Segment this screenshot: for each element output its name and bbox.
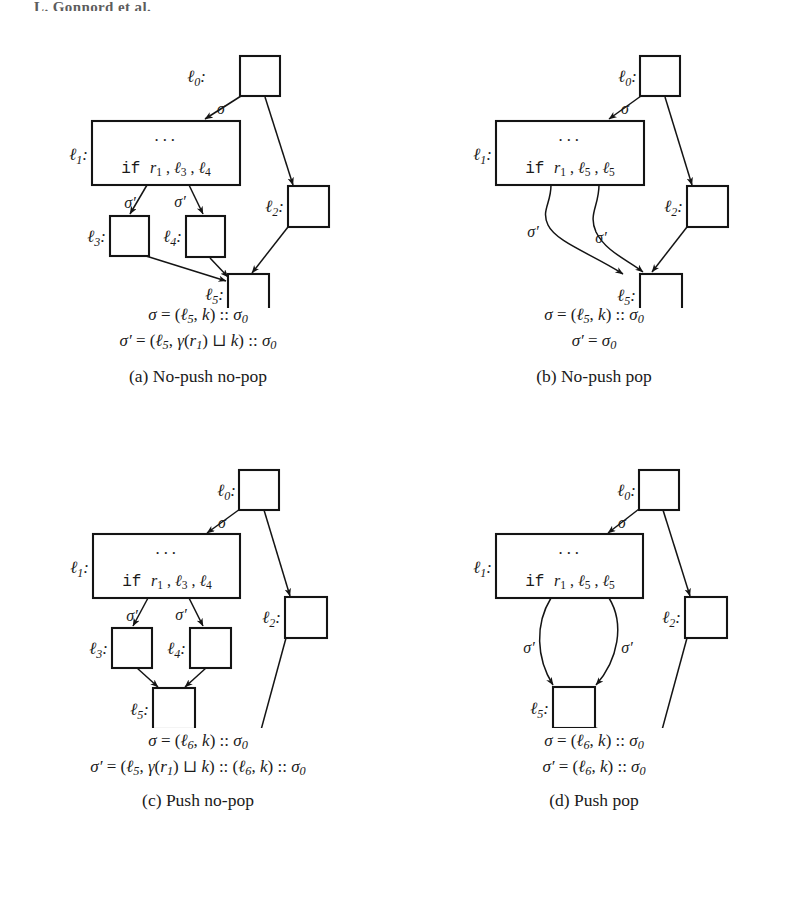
box-ellipsis-d: ··· xyxy=(558,544,582,563)
edge-label-sigma-b: σ xyxy=(621,100,630,117)
node-l3[interactable] xyxy=(112,628,152,668)
node-label-l0: ℓ0: xyxy=(217,481,236,503)
edge-label-sigma-prime-left-a: σ′ xyxy=(124,194,136,211)
formulas-a: σ = (ℓ5, k) :: σ0 σ′ = (ℓ5, γ(r1) ⊔ k) :… xyxy=(0,304,396,356)
edge-l1-to-l5-left xyxy=(546,185,623,274)
node-label-l2: ℓ2: xyxy=(664,197,683,219)
node-label-l1: ℓ1: xyxy=(473,558,492,580)
node-l5[interactable] xyxy=(553,687,595,728)
edge-l4-to-l5 xyxy=(185,668,206,687)
edge-l1-to-l4 xyxy=(189,598,203,626)
edge-l3-to-l5 xyxy=(146,256,226,281)
formula-sigma-prime-a: σ′ = (ℓ5, γ(r1) ⊔ k) :: σ0 xyxy=(0,330,396,356)
formulas-c: σ = (ℓ6, k) :: σ0 σ′ = (ℓ5, γ(r1) ⊔ k) :… xyxy=(0,730,396,782)
edge-l2-to-l5 xyxy=(652,227,687,272)
node-label-l3: ℓ3: xyxy=(87,227,106,249)
caption-b: (b) No-push pop xyxy=(396,366,792,387)
edge-l1-to-l4 xyxy=(189,185,203,214)
edge-label-sigma-prime-left-b: σ′ xyxy=(527,223,539,240)
node-label-l0: ℓ0: xyxy=(618,67,637,89)
node-l2[interactable] xyxy=(685,597,727,638)
formulas-d: σ = (ℓ6, k) :: σ0 σ′ = (ℓ6, k) :: σ0 xyxy=(396,730,792,782)
graph-d: ℓ0: ℓ1: ··· if r1 , ℓ5 , ℓ5 ℓ2: ℓ5: ℓ6: … xyxy=(396,438,792,728)
formula-sigma-prime-d: σ′ = (ℓ6, k) :: σ0 xyxy=(396,756,792,782)
figure-panel-c: ℓ0: ℓ1: ··· if r1 , ℓ3 , ℓ4 ℓ2: ℓ3: ℓ4: … xyxy=(0,438,396,858)
node-l0[interactable] xyxy=(240,56,280,96)
edge-l3-to-l5 xyxy=(137,668,158,687)
node-label-l5: ℓ5: xyxy=(130,700,149,722)
edge-l2-to-l6 xyxy=(659,638,687,728)
graph-b: ℓ0: ℓ1: ··· if r1 , ℓ5 , ℓ5 ℓ2: ℓ5: σ σ′… xyxy=(396,18,792,308)
formulas-b: σ = (ℓ5, k) :: σ0 σ′ = σ0 xyxy=(396,304,792,356)
box-ellipsis-b: ··· xyxy=(558,131,582,150)
node-label-l1: ℓ1: xyxy=(70,558,89,580)
graph-c: ℓ0: ℓ1: ··· if r1 , ℓ3 , ℓ4 ℓ2: ℓ3: ℓ4: … xyxy=(0,438,396,728)
formula-sigma-prime-b: σ′ = σ0 xyxy=(396,330,792,356)
edge-label-sigma-prime-right-c: σ′ xyxy=(175,606,187,623)
edge-l0-to-l2 xyxy=(264,510,290,596)
node-label-l4: ℓ4: xyxy=(163,227,182,249)
node-l5[interactable] xyxy=(228,274,269,308)
edge-label-sigma-prime-left-c: σ′ xyxy=(126,607,138,624)
node-label-l2: ℓ2: xyxy=(265,197,284,219)
edge-l0-to-l2 xyxy=(663,510,690,596)
formula-sigma-c: σ = (ℓ6, k) :: σ0 xyxy=(0,730,396,756)
figure-panel-b: ℓ0: ℓ1: ··· if r1 , ℓ5 , ℓ5 ℓ2: ℓ5: σ σ′… xyxy=(396,18,792,438)
edge-label-sigma-prime-right-a: σ′ xyxy=(174,193,186,210)
node-l5[interactable] xyxy=(153,688,195,728)
edge-l4-to-l5 xyxy=(210,258,228,277)
node-label-l1: ℓ1: xyxy=(473,145,492,167)
edge-label-sigma-d: σ xyxy=(618,514,627,531)
figure-panel-a: ℓ0: ℓ1: ··· if r1 , ℓ3 , ℓ4 ℓ2: ℓ3: ℓ4: … xyxy=(0,18,396,438)
running-head: L. Gonnord et al. xyxy=(34,0,151,11)
box-ellipsis-a: ··· xyxy=(154,131,178,150)
node-label-l0: ℓ0: xyxy=(187,67,206,89)
node-l0[interactable] xyxy=(639,470,679,510)
node-l2[interactable] xyxy=(687,186,728,227)
edge-label-sigma-prime-right-d: σ′ xyxy=(621,639,633,656)
edge-l2-to-l5 xyxy=(252,227,288,273)
node-label-l3: ℓ3: xyxy=(89,639,108,661)
caption-d: (d) Push pop xyxy=(396,790,792,811)
box-if-line-d: if r1 , ℓ5 , ℓ5 xyxy=(525,572,615,591)
node-label-l2: ℓ2: xyxy=(262,608,281,630)
box-if-line-a: if r1 , ℓ3 , ℓ4 xyxy=(121,159,211,178)
node-l4[interactable] xyxy=(190,628,231,668)
node-l2[interactable] xyxy=(285,597,327,638)
node-l0[interactable] xyxy=(239,470,279,510)
node-l0[interactable] xyxy=(640,56,680,96)
edge-label-sigma-prime-right-b: σ′ xyxy=(595,229,607,246)
formula-sigma-prime-c: σ′ = (ℓ5, γ(r1) ⊔ k) :: (ℓ6, k) :: σ0 xyxy=(0,756,396,782)
node-label-l4: ℓ4: xyxy=(167,639,186,661)
graph-a: ℓ0: ℓ1: ··· if r1 , ℓ3 , ℓ4 ℓ2: ℓ3: ℓ4: … xyxy=(0,18,396,308)
box-if-line-b: if r1 , ℓ5 , ℓ5 xyxy=(525,159,615,178)
edge-label-sigma-a: σ xyxy=(217,100,226,117)
caption-c: (c) Push no-pop xyxy=(0,790,396,811)
box-ellipsis-c: ··· xyxy=(155,544,179,563)
edge-label-sigma-c: σ xyxy=(218,514,227,531)
node-l3[interactable] xyxy=(110,216,149,256)
edge-l1-to-l5-right xyxy=(596,598,618,685)
box-if-line-c: if r1 , ℓ3 , ℓ4 xyxy=(122,572,212,591)
node-l2[interactable] xyxy=(288,186,329,227)
edge-l2-to-l6 xyxy=(258,638,286,728)
caption-a: (a) No-push no-pop xyxy=(0,366,396,387)
edge-label-sigma-prime-left-d: σ′ xyxy=(523,639,535,656)
node-label-l1: ℓ1: xyxy=(69,145,88,167)
node-label-l0: ℓ0: xyxy=(617,481,636,503)
node-label-l2: ℓ2: xyxy=(662,608,681,630)
figure-control-flow-graphs: ℓ0: ℓ1: ··· if r1 , ℓ3 , ℓ4 ℓ2: ℓ3: ℓ4: … xyxy=(0,18,792,898)
edge-l1-to-l5-left xyxy=(540,598,553,685)
node-label-l5: ℓ5: xyxy=(530,699,549,721)
formula-sigma-d: σ = (ℓ6, k) :: σ0 xyxy=(396,730,792,756)
edge-l0-to-l2 xyxy=(665,97,692,185)
formula-sigma-b: σ = (ℓ5, k) :: σ0 xyxy=(396,304,792,330)
formula-sigma-a: σ = (ℓ5, k) :: σ0 xyxy=(0,304,396,330)
node-l5[interactable] xyxy=(640,274,682,308)
figure-panel-d: ℓ0: ℓ1: ··· if r1 , ℓ5 , ℓ5 ℓ2: ℓ5: ℓ6: … xyxy=(396,438,792,858)
node-l4[interactable] xyxy=(186,216,225,257)
edge-l0-to-l2 xyxy=(265,97,293,185)
